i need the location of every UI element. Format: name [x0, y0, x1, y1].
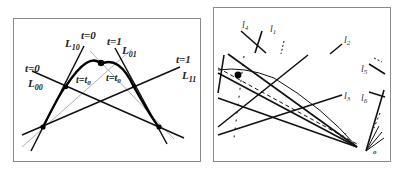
segment-l2 — [330, 44, 342, 54]
label-t0-left: t=0 — [25, 62, 40, 74]
point-bottom-right — [156, 124, 161, 129]
label-l4: l4 — [242, 19, 249, 32]
point-bottom-left — [40, 124, 45, 129]
point-left — [64, 85, 68, 89]
pencil2-line-1 — [366, 90, 384, 151]
left-diagram-canvas: t=0 L00 t=0 L10 t=1 L01 t=1 L11 t=t0 t=t… — [14, 19, 202, 163]
segment-l4 — [241, 31, 266, 53]
point-marked — [235, 72, 242, 79]
left-diagram-panel: t=0 L00 t=0 L10 t=1 L01 t=1 L11 t=t0 t=t… — [13, 18, 201, 162]
label-l3: l3 — [344, 90, 351, 103]
segment-dashed-right — [374, 58, 382, 62]
segment-dashed-top — [281, 41, 284, 54]
label-t1-top: t=1 — [107, 35, 122, 47]
right-diagram-canvas: l4 l1 l2 l5 l6 l3 o' o — [214, 8, 392, 163]
label-t0-top: t=0 — [81, 29, 96, 41]
label-o: o — [373, 148, 377, 156]
label-l2: l2 — [344, 34, 351, 47]
label-L11: L11 — [181, 69, 196, 84]
dashed-vertical — [234, 56, 244, 138]
segment-l1 — [255, 31, 262, 53]
label-L00: L00 — [27, 77, 43, 92]
pencil-line-3 — [218, 98, 357, 147]
label-L10: L10 — [64, 37, 80, 52]
point-top — [98, 60, 104, 66]
label-t-eq-t0-right: t=t0 — [106, 72, 121, 85]
point-right — [132, 84, 136, 88]
label-l1: l1 — [270, 23, 276, 36]
label-l5: l5 — [361, 63, 368, 76]
label-l6: l6 — [361, 92, 368, 105]
conic-curve — [43, 60, 159, 127]
right-diagram-panel: l4 l1 l2 l5 l6 l3 o' o — [213, 7, 391, 162]
label-t1-right: t=1 — [176, 53, 191, 65]
label-o-prime: o' — [340, 132, 347, 141]
line-L01 — [115, 48, 167, 144]
label-t-eq-t0-left: t=t0 — [76, 74, 91, 87]
segment-l5 — [369, 64, 385, 74]
